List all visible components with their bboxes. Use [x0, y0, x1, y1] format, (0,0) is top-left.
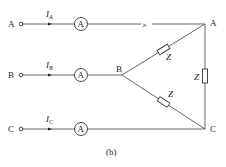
terminal-a-node [19, 22, 23, 26]
terminal-b-label: B [8, 70, 14, 80]
impedance-ac-label: Z [194, 72, 200, 82]
terminal-a-label: A [8, 19, 15, 29]
figure-caption: (b) [106, 147, 117, 157]
arrow-a-icon [48, 23, 52, 26]
arrow-c-icon [48, 128, 52, 131]
impedance-bc-label: Z [168, 89, 174, 99]
node-b-label: B [116, 64, 122, 74]
terminal-c-label: C [8, 124, 14, 134]
node-a-label: A [210, 18, 217, 28]
ammeter-c-label: A [78, 124, 85, 134]
current-c-label: IC [45, 114, 54, 125]
node-c-label: C [210, 124, 216, 134]
impedance-ab-label: Z [166, 52, 172, 62]
terminal-b-node [19, 73, 23, 77]
terminal-c-node [19, 127, 23, 131]
ammeter-a-label: A [78, 19, 85, 29]
impedance-ac-icon [203, 69, 208, 83]
circuit-diagram: A B C IA A × IB A IC A Z Z Z A B C (b) [0, 0, 226, 167]
break-mark-icon: × [142, 20, 147, 30]
current-a-label: IA [45, 9, 53, 20]
ammeter-b-label: A [78, 70, 85, 80]
arrow-b-icon [48, 74, 52, 77]
current-b-label: IB [45, 60, 53, 71]
